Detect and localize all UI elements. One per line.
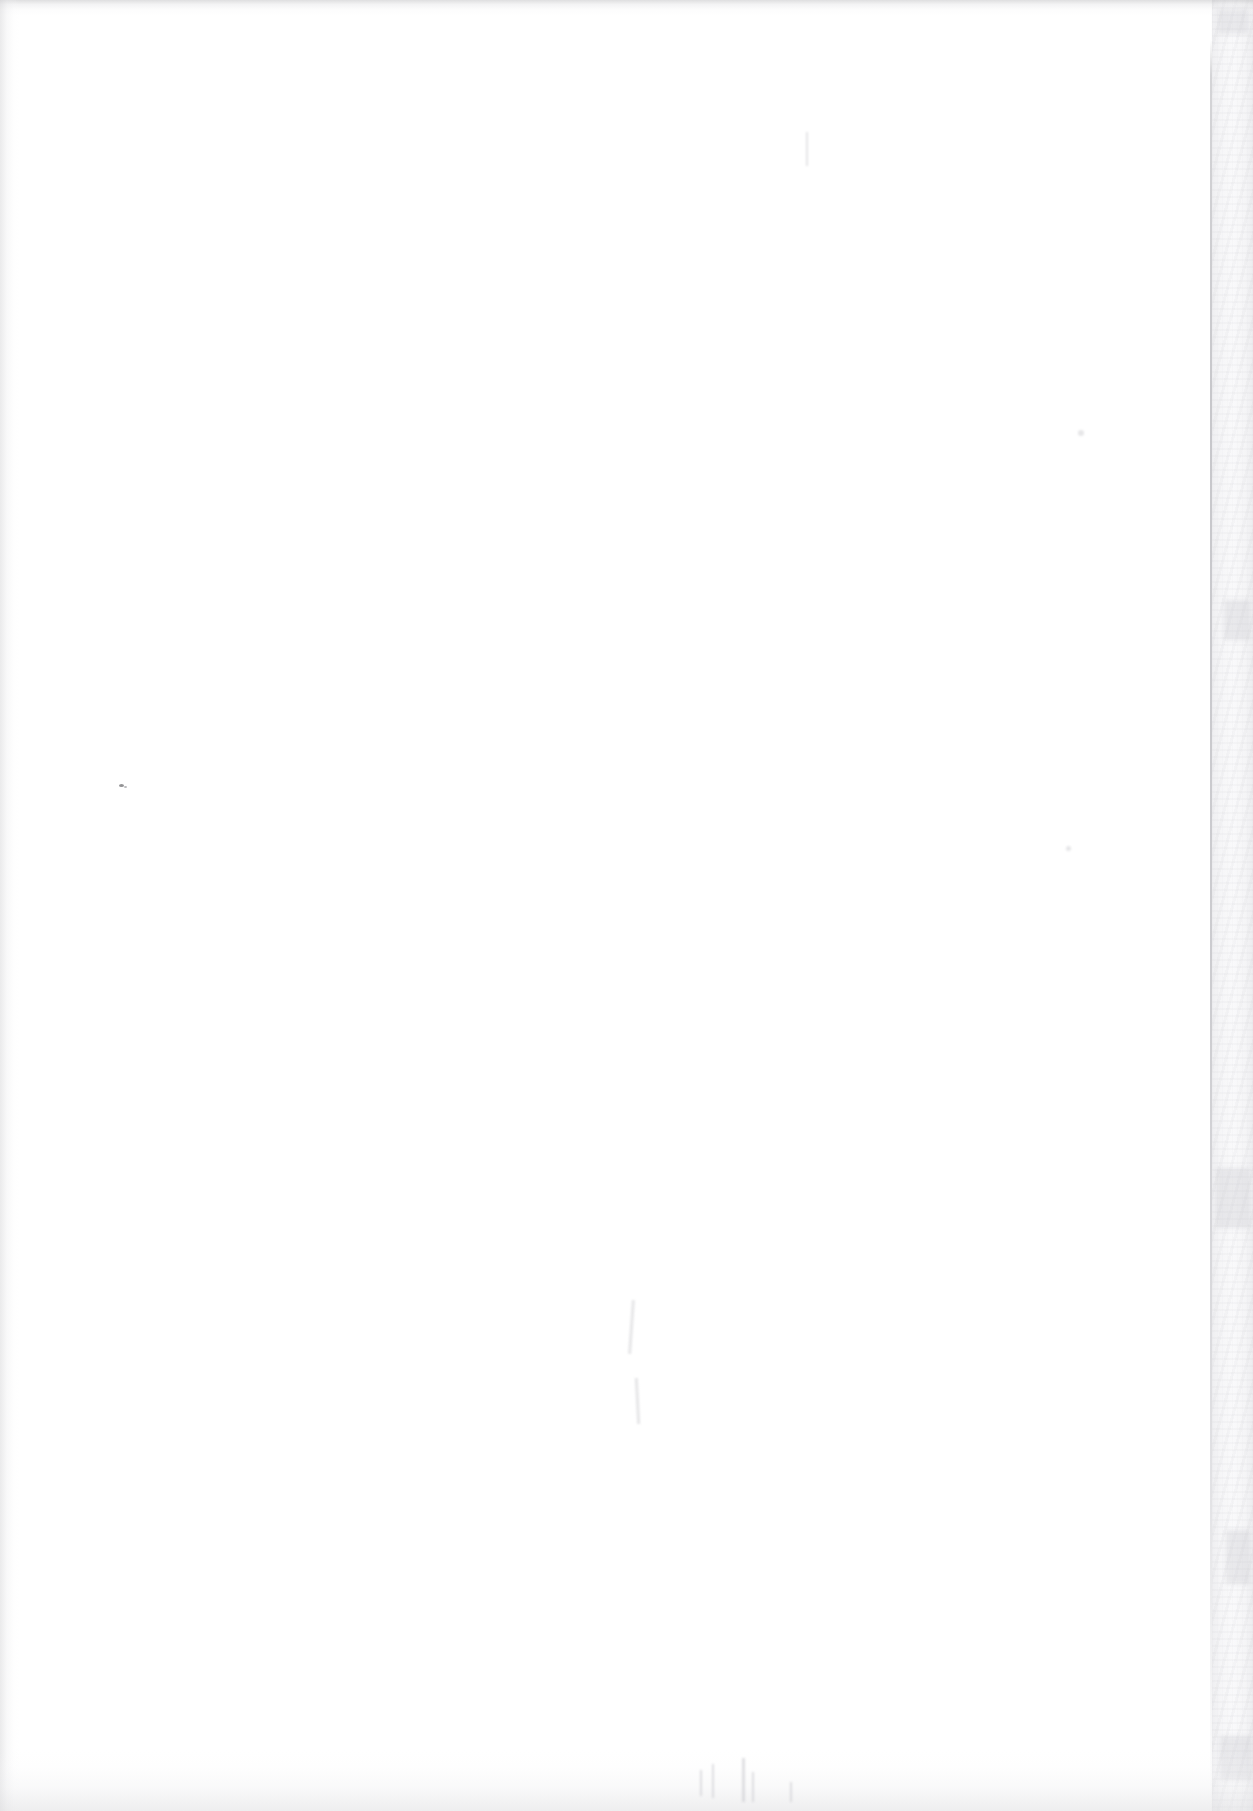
strip-patch bbox=[1216, 1168, 1250, 1228]
scanner-backing-strip bbox=[1212, 0, 1253, 1811]
strip-patch bbox=[1226, 1530, 1250, 1584]
strip-patch bbox=[1224, 600, 1250, 640]
strip-patch bbox=[1220, 1736, 1252, 1780]
strip-patch bbox=[1218, 8, 1248, 34]
paper-fiber-texture bbox=[1212, 0, 1253, 1811]
scanned-page: Blank scanned page bbox=[0, 0, 1253, 1811]
paper-surface bbox=[0, 0, 1211, 1811]
